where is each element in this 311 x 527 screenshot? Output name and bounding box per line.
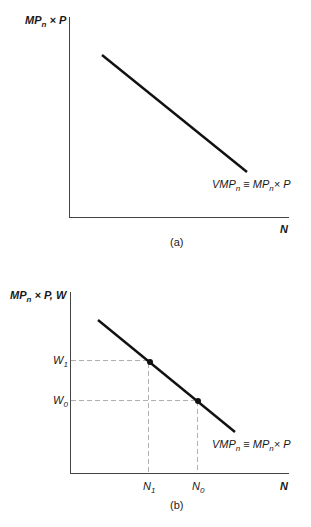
panel-b-x-axis-label: N [280,481,288,492]
point-w1-n1 [147,359,153,365]
label-text: × P, W [31,289,66,301]
label-text: × P [274,178,291,190]
panel-b-caption: (b) [170,500,183,511]
label-sub: 0 [200,486,204,495]
label-sub: 1 [151,486,155,495]
label-text: W [53,354,63,366]
y-tick-w0: W0 [53,395,68,406]
label-text: × P [46,14,66,26]
label-text: N [143,480,151,492]
y-tick-w1: W1 [53,355,68,366]
label-text: × P [274,438,291,450]
panel-a-y-axis-label: MPn × P [25,15,66,26]
label-text: N [192,480,200,492]
x-tick-n0: N0 [192,481,204,492]
panel-b-vmp-curve [98,320,235,432]
panel-a-vmp-curve [102,55,247,172]
label-text: ≡ MP [240,178,269,190]
label-text: VMP [212,438,236,450]
panel-b-curve-label: VMPn ≡ MPn× P [212,439,291,450]
x-tick-n1: N1 [143,481,155,492]
label-text: W [53,394,63,406]
label-text: MP [10,289,27,301]
panel-a-curve-label: VMPn ≡ MPn× P [212,179,291,190]
label-sub: 1 [63,360,67,369]
point-w0-n0 [195,398,201,404]
label-text: MP [25,14,42,26]
label-text: VMP [212,178,236,190]
label-sub: 0 [63,400,67,409]
panel-a-x-axis-label: N [280,224,288,235]
panel-b-y-axis-label: MPn × P, W [10,290,66,301]
label-text: ≡ MP [240,438,269,450]
panel-a-caption: (a) [170,237,183,248]
